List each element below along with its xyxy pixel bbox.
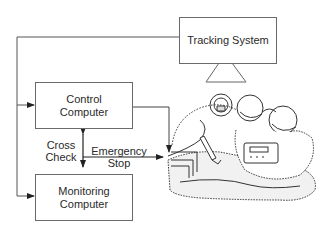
tracking-system-label: Tracking System (187, 34, 269, 47)
tracking-camera-triangle (206, 63, 246, 82)
monitoring-computer-label-line2: Computer (60, 198, 108, 211)
monitoring-computer-label-line1: Monitoring (58, 185, 109, 198)
surgical-scene-illustration (168, 94, 315, 200)
cross-check-label: Cross Check (42, 139, 80, 163)
cross-check-line1: Cross (42, 139, 80, 151)
emergency-stop-line1: Emergency (88, 145, 150, 157)
tracking-system-box: Tracking System (179, 17, 277, 64)
emergency-stop-line2: Stop (88, 157, 150, 169)
cross-check-line2: Check (42, 151, 80, 163)
monitoring-computer-box: Monitoring Computer (35, 174, 133, 221)
control-computer-box: Control Computer (35, 82, 133, 129)
control-computer-label-line2: Computer (60, 106, 108, 119)
emergency-stop-label: Emergency Stop (88, 145, 150, 169)
control-computer-label-line1: Control (66, 93, 101, 106)
